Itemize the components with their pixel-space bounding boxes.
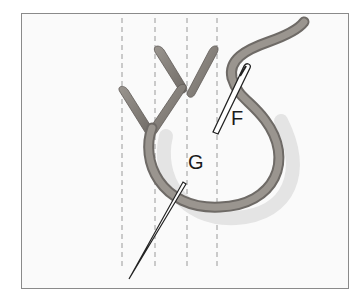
- label-f: F: [231, 108, 243, 128]
- label-g: G: [188, 152, 204, 172]
- needle-g: [129, 182, 186, 279]
- feather-stitches: [119, 46, 218, 135]
- stitch-illustration: [0, 0, 356, 298]
